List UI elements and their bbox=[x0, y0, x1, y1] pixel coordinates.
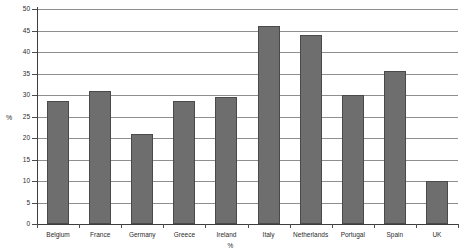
y-axis-tick-mark bbox=[32, 9, 37, 10]
x-axis-tick-mark bbox=[248, 224, 249, 228]
y-axis-tick-mark bbox=[32, 95, 37, 96]
y-axis-tick-mark bbox=[32, 138, 37, 139]
x-axis-category-label: Italy bbox=[263, 232, 275, 239]
x-axis-category-label: Netherlands bbox=[293, 232, 328, 239]
bar[interactable] bbox=[215, 97, 237, 224]
x-axis-tick-mark bbox=[79, 224, 80, 228]
y-axis-tick-label: 50 bbox=[23, 6, 30, 13]
x-axis-tick-mark bbox=[37, 224, 38, 228]
y-axis-tick-label: 15 bbox=[23, 156, 30, 163]
bar[interactable] bbox=[258, 26, 280, 224]
bar[interactable] bbox=[384, 71, 406, 224]
x-axis-tick-mark bbox=[121, 224, 122, 228]
y-axis-tick-label: 10 bbox=[23, 178, 30, 185]
y-axis-tick-label: 30 bbox=[23, 92, 30, 99]
x-axis-category-label: Ireland bbox=[217, 232, 237, 239]
y-axis-tick-label: 40 bbox=[23, 49, 30, 56]
y-axis-tick-labels: 05101520253035404550 bbox=[0, 0, 36, 251]
x-axis-tick-mark bbox=[458, 224, 459, 228]
y-axis-tick-label: 35 bbox=[23, 70, 30, 77]
x-axis-tick-mark bbox=[332, 224, 333, 228]
x-axis-tick-mark bbox=[290, 224, 291, 228]
x-axis-tick-mark bbox=[205, 224, 206, 228]
bar[interactable] bbox=[89, 91, 111, 224]
x-axis-tick-mark bbox=[374, 224, 375, 228]
bars-layer bbox=[37, 0, 458, 225]
x-axis-category-label: Germany bbox=[129, 232, 156, 239]
y-axis-tick-mark bbox=[32, 203, 37, 204]
y-axis-tick-mark bbox=[32, 31, 37, 32]
y-axis-tick-mark bbox=[32, 160, 37, 161]
x-axis-category-label: Belgium bbox=[46, 232, 69, 239]
bar[interactable] bbox=[173, 101, 195, 224]
y-axis-tick-label: 25 bbox=[23, 113, 30, 120]
y-axis-tick-label: 20 bbox=[23, 135, 30, 142]
x-axis-category-label: Portugal bbox=[341, 232, 365, 239]
bar[interactable] bbox=[300, 35, 322, 224]
x-axis-category-label: UK bbox=[432, 232, 441, 239]
y-axis-tick-mark bbox=[32, 74, 37, 75]
y-axis-tick-label: 5 bbox=[26, 199, 30, 206]
y-axis-tick-mark bbox=[32, 52, 37, 53]
y-axis-tick-mark bbox=[32, 181, 37, 182]
bar[interactable] bbox=[47, 101, 69, 224]
x-axis-title: % bbox=[0, 242, 461, 249]
bar[interactable] bbox=[426, 181, 448, 224]
y-axis-tick-label: 45 bbox=[23, 27, 30, 34]
y-axis-tick-mark bbox=[32, 117, 37, 118]
bar-chart: % 05101520253035404550 % BelgiumFranceGe… bbox=[0, 0, 461, 251]
x-axis-category-label: Spain bbox=[387, 232, 404, 239]
x-axis-tick-mark bbox=[163, 224, 164, 228]
x-axis-category-label: France bbox=[90, 232, 110, 239]
bar[interactable] bbox=[131, 134, 153, 224]
bar[interactable] bbox=[342, 95, 364, 224]
x-axis-category-label: Greece bbox=[174, 232, 195, 239]
x-axis-tick-mark bbox=[416, 224, 417, 228]
y-axis-tick-label: 0 bbox=[26, 221, 30, 228]
